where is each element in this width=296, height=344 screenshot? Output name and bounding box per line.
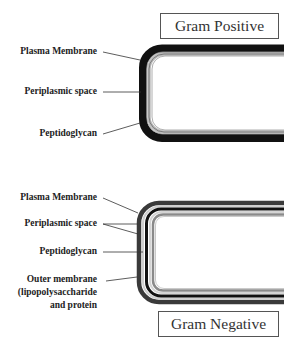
- label-periplasmic-space-pos: Periplasmic space: [24, 86, 97, 97]
- gram-stain-cell-wall-diagram: Gram Positive Gram Negative Plasma Membr…: [0, 0, 296, 344]
- label-outer-membrane-neg: Outer membrane (lipopolysaccharide and p…: [18, 274, 97, 311]
- label-periplasmic-space-neg: Periplasmic space: [24, 218, 97, 229]
- gram-positive-peptidoglycan-layer: [143, 49, 284, 139]
- gram-negative-outer-membrane: [139, 203, 284, 302]
- gram-positive-title: Gram Positive: [160, 13, 279, 39]
- label-plasma-membrane-pos: Plasma Membrane: [20, 46, 97, 57]
- label-peptidoglycan-pos: Peptidoglycan: [39, 128, 97, 139]
- label-plasma-membrane-neg: Plasma Membrane: [20, 192, 97, 203]
- label-outer-membrane-line3: and protein: [18, 300, 97, 311]
- leader-periplasmic-space-neg-b: [103, 224, 138, 234]
- gram-positive-envelope: [143, 49, 284, 139]
- leader-plasma-membrane-pos: [103, 52, 140, 60]
- gram-negative-envelope: [139, 203, 284, 302]
- label-outer-membrane-line1: Outer membrane: [18, 274, 97, 285]
- leader-outer-membrane-neg: [106, 277, 137, 281]
- gram-positive-leader-lines: [103, 52, 141, 134]
- gram-negative-title: Gram Negative: [158, 311, 279, 337]
- gram-positive-periplasmic-space: [149, 54, 284, 132]
- gram-negative-plasma-membrane: [153, 215, 284, 291]
- leader-plasma-membrane-neg: [103, 198, 138, 213]
- gram-positive-plasma-membrane: [149, 54, 284, 132]
- label-peptidoglycan-neg: Peptidoglycan: [39, 246, 97, 257]
- gram-negative-periplasmic-space: [150, 212, 284, 293]
- gram-negative-peptidoglycan-layer: [147, 209, 285, 296]
- leader-peptidoglycan-pos: [103, 123, 140, 134]
- label-outer-membrane-line2: (lipopolysaccharide: [18, 287, 97, 298]
